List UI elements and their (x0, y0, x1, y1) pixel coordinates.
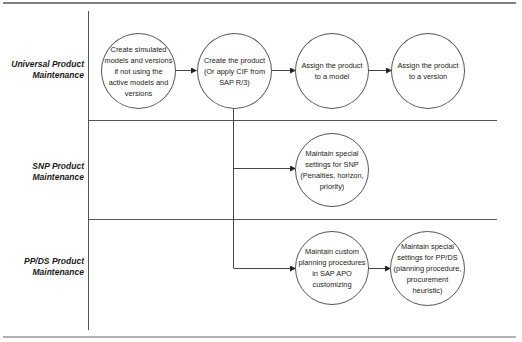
lane-label-snp: SNP Product Maintenance (32, 161, 84, 183)
node-assign-model[interactable]: Assign the product to a model (295, 33, 369, 109)
lane-label-line: Universal Product (11, 59, 84, 70)
lane-label-line: Maintenance (32, 172, 84, 183)
node-snp-settings[interactable]: Maintain special settings for SNP (Penal… (295, 133, 369, 207)
node-text: Create the product (Or apply CIF from SA… (198, 55, 271, 88)
lane-label-ppds: PP/DS Product Maintenance (24, 256, 84, 278)
node-text: Create simulated models and versions if … (102, 44, 175, 99)
node-ppds-settings[interactable]: Maintain special settings for PP/DS (pla… (390, 231, 465, 306)
node-assign-version[interactable]: Assign the product to a version (391, 33, 465, 109)
node-text: Maintain special settings for PP/DS (pla… (391, 241, 464, 296)
node-custom-planning[interactable]: Maintain custom planning procedures in S… (295, 231, 369, 305)
node-text: Maintain special settings for SNP (Penal… (297, 148, 367, 192)
node-create-simulated-models[interactable]: Create simulated models and versions if … (101, 33, 176, 109)
lane-label-line: Maintenance (24, 267, 84, 278)
node-text: Assign the product to a version (394, 60, 462, 82)
lane-label-line: Maintenance (11, 70, 84, 81)
lane-label-universal: Universal Product Maintenance (11, 59, 84, 81)
lane-label-line: PP/DS Product (24, 256, 84, 267)
node-text: Maintain custom planning procedures in S… (296, 246, 368, 290)
node-text: Assign the product to a model (298, 60, 366, 82)
lane-label-line: SNP Product (32, 161, 84, 172)
node-create-product[interactable]: Create the product (Or apply CIF from SA… (197, 33, 272, 109)
